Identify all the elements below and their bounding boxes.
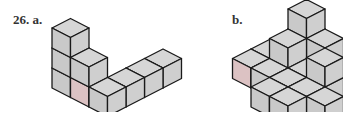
figure-a-cube-structure	[52, 19, 182, 113]
figure-b-cube-structure	[233, 0, 343, 112]
isometric-cube-diagrams	[0, 0, 343, 112]
